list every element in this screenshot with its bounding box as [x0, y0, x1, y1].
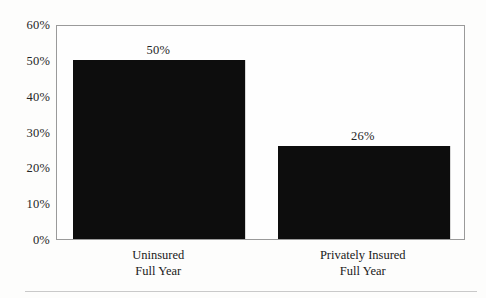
y-axis-tick-label: 10% [4, 197, 50, 212]
category-label-line-1: Uninsured [132, 248, 184, 262]
x-axis-category-label: Privately InsuredFull Year [253, 248, 473, 279]
y-axis-tick-label: 30% [4, 125, 50, 140]
y-axis-tick-label: 20% [4, 161, 50, 176]
category-label-line-1: Privately Insured [320, 248, 406, 262]
bar-value-label: 50% [72, 43, 244, 58]
category-label-line-2: Full Year [253, 264, 473, 280]
x-axis-category-label: UninsuredFull Year [48, 248, 268, 279]
bar-value-label: 26% [277, 129, 449, 144]
bar-chart-figure: 0%10%20%30%40%50%60% 50%UninsuredFull Ye… [0, 0, 486, 298]
footer-divider [25, 291, 477, 292]
y-axis-tick-label: 50% [4, 53, 50, 68]
y-axis-tick-label: 0% [4, 233, 50, 248]
bar [73, 60, 245, 239]
category-label-line-2: Full Year [48, 264, 268, 280]
y-axis-tick-label: 60% [4, 18, 50, 33]
y-axis-tick-label: 40% [4, 89, 50, 104]
y-axis: 0%10%20%30%40%50%60% [0, 0, 50, 298]
bar [278, 146, 450, 239]
